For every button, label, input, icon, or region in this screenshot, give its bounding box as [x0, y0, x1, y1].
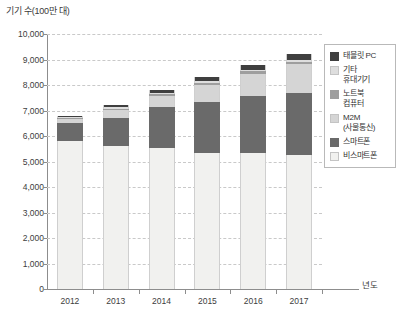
legend-item[interactable]: M2M(사물통신)	[330, 113, 391, 133]
legend-swatch-icon	[330, 138, 339, 147]
legend-label: 기타휴대기기	[343, 65, 370, 85]
bar-segment[interactable]	[286, 64, 312, 93]
chart-container: 기기 수(100만 대) 01,0002,0003,0004,0005,0006…	[0, 0, 400, 315]
x-tick-mark	[93, 289, 94, 294]
bar-segment[interactable]	[103, 105, 129, 107]
bar-segment[interactable]	[240, 96, 266, 154]
legend-swatch-icon	[330, 90, 339, 99]
gridline	[47, 34, 322, 35]
bar-group[interactable]	[286, 34, 312, 289]
gridline	[47, 162, 322, 163]
bar-group[interactable]	[103, 34, 129, 289]
bar-segment[interactable]	[240, 65, 266, 70]
bar-segment[interactable]	[194, 77, 220, 81]
bar-segment[interactable]	[194, 102, 220, 153]
bar-segment[interactable]	[57, 141, 83, 289]
bar-segment[interactable]	[194, 83, 220, 85]
x-tick-label: 2013	[96, 296, 136, 306]
x-tick-mark	[230, 289, 231, 294]
x-axis-title: 년도	[362, 278, 378, 290]
bar-segment[interactable]	[103, 118, 129, 146]
y-tick-label: 3,000	[0, 208, 44, 218]
y-tick-label: 8,000	[0, 80, 44, 90]
bar-segment[interactable]	[57, 119, 83, 123]
y-tick-label: 10,000	[0, 29, 44, 39]
legend-item[interactable]: 비스마트폰	[330, 151, 391, 161]
bar-segment[interactable]	[286, 62, 312, 64]
legend-item[interactable]: 태블릿 PC	[330, 51, 391, 61]
bar-segment[interactable]	[286, 93, 312, 155]
x-tick-mark	[322, 289, 323, 294]
bar-segment[interactable]	[149, 90, 175, 93]
legend-item[interactable]: 기타휴대기기	[330, 65, 391, 85]
legend-item[interactable]: 노트북컴퓨터	[330, 89, 391, 109]
gridline	[47, 213, 322, 214]
y-tick-label: 1,000	[0, 259, 44, 269]
y-tick-label: 6,000	[0, 131, 44, 141]
y-tick-label: 0	[0, 284, 44, 294]
y-tick-label: 2,000	[0, 233, 44, 243]
bar-segment[interactable]	[149, 107, 175, 149]
bar-group[interactable]	[240, 34, 266, 289]
bar-segment[interactable]	[240, 153, 266, 289]
y-axis-title: 기기 수(100만 대)	[6, 4, 70, 17]
bar-group[interactable]	[194, 34, 220, 289]
chart-legend: 태블릿 PC기타휴대기기노트북컴퓨터M2M(사물통신)스마트폰비스마트폰	[324, 44, 396, 168]
bar-segment[interactable]	[240, 71, 266, 73]
x-tick-label: 2016	[233, 296, 273, 306]
legend-label: 노트북컴퓨터	[343, 89, 363, 109]
bar-segment[interactable]	[103, 109, 129, 110]
x-tick-label: 2014	[142, 296, 182, 306]
gridline	[47, 238, 322, 239]
gridline	[47, 187, 322, 188]
bar-segment[interactable]	[57, 116, 83, 117]
bar-segment[interactable]	[57, 123, 83, 141]
legend-label: 비스마트폰	[343, 151, 377, 161]
y-tick-label: 4,000	[0, 182, 44, 192]
bar-segment[interactable]	[103, 146, 129, 289]
legend-swatch-icon	[330, 114, 339, 123]
legend-swatch-icon	[330, 66, 339, 75]
bar-segment[interactable]	[286, 60, 312, 62]
bar-group[interactable]	[149, 34, 175, 289]
bar-segment[interactable]	[286, 54, 312, 61]
plot-area	[47, 34, 322, 289]
legend-label: M2M(사물통신)	[343, 113, 375, 133]
bar-segment[interactable]	[149, 94, 175, 96]
x-tick-label: 2012	[50, 296, 90, 306]
bar-segment[interactable]	[57, 117, 83, 118]
bar-segment[interactable]	[149, 93, 175, 94]
bar-segment[interactable]	[149, 96, 175, 107]
legend-swatch-icon	[330, 52, 339, 61]
bar-segment[interactable]	[57, 118, 83, 119]
bar-segment[interactable]	[103, 110, 129, 118]
bar-segment[interactable]	[240, 70, 266, 72]
legend-swatch-icon	[330, 152, 339, 161]
legend-item[interactable]: 스마트폰	[330, 137, 391, 147]
gridline	[47, 136, 322, 137]
bar-segment[interactable]	[240, 74, 266, 96]
bar-segment[interactable]	[149, 148, 175, 289]
bar-segment[interactable]	[194, 153, 220, 289]
bar-segment[interactable]	[103, 107, 129, 108]
bar-segment[interactable]	[286, 155, 312, 289]
y-tick-label: 7,000	[0, 106, 44, 116]
bar-group[interactable]	[57, 34, 83, 289]
gridline	[47, 60, 322, 61]
y-tick-label: 9,000	[0, 55, 44, 65]
x-tick-mark	[276, 289, 277, 294]
x-tick-mark	[185, 289, 186, 294]
legend-label: 스마트폰	[343, 137, 370, 147]
bar-segment[interactable]	[194, 81, 220, 82]
gridline	[47, 264, 322, 265]
gridline	[47, 85, 322, 86]
y-tick-label: 5,000	[0, 157, 44, 167]
gridline	[47, 111, 322, 112]
legend-label: 태블릿 PC	[343, 51, 376, 61]
bar-segment[interactable]	[194, 85, 220, 102]
x-tick-label: 2017	[279, 296, 319, 306]
x-tick-mark	[139, 289, 140, 294]
x-tick-label: 2015	[187, 296, 227, 306]
